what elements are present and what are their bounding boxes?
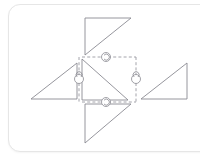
center-triangle xyxy=(82,59,128,100)
reflection-figure xyxy=(0,0,200,159)
bottom-triangle xyxy=(85,104,131,143)
figure-svg xyxy=(0,0,200,159)
flip-marker-bottom xyxy=(102,98,111,107)
top-triangle xyxy=(85,18,131,55)
screenshot-root xyxy=(0,0,200,159)
left-triangle xyxy=(31,63,77,99)
right-triangle xyxy=(141,63,187,99)
flip-marker-top xyxy=(102,53,111,62)
